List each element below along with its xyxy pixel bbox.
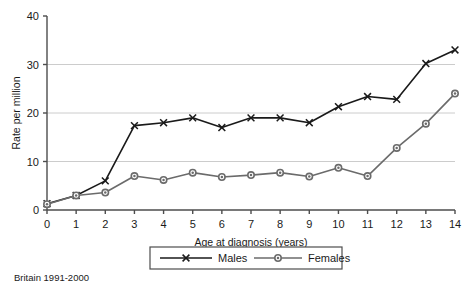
y-axis-title: Rate per million — [10, 76, 22, 149]
x-tick-label-0: 0 — [44, 218, 50, 230]
chart-figure: 01020304001234567891011121314Rate per mi… — [0, 0, 465, 289]
x-tick-label-14: 14 — [449, 218, 461, 230]
datapoint-females-age-13-dot — [425, 122, 428, 125]
legend-label-females: Females — [308, 252, 351, 264]
x-tick-label-5: 5 — [190, 218, 196, 230]
legend-label-males: Males — [218, 252, 248, 264]
x-tick-label-1: 1 — [73, 218, 79, 230]
y-tick-label-20: 20 — [27, 107, 39, 119]
datapoint-females-age-6-dot — [221, 176, 224, 179]
y-tick-label-0: 0 — [33, 204, 39, 216]
x-tick-label-10: 10 — [332, 218, 344, 230]
chart-caption: Britain 1991-2000 — [14, 272, 89, 283]
x-tick-label-4: 4 — [161, 218, 167, 230]
datapoint-females-age-12-dot — [395, 147, 398, 150]
datapoint-females-age-10-dot — [337, 167, 340, 170]
datapoint-females-age-0-dot — [46, 203, 49, 206]
x-tick-label-9: 9 — [306, 218, 312, 230]
y-tick-label-10: 10 — [27, 156, 39, 168]
datapoint-females-age-1-dot — [75, 194, 78, 197]
x-tick-label-6: 6 — [219, 218, 225, 230]
datapoint-females-age-14-dot — [454, 92, 457, 95]
x-tick-label-2: 2 — [102, 218, 108, 230]
x-tick-label-3: 3 — [131, 218, 137, 230]
x-tick-label-11: 11 — [362, 218, 373, 230]
legend-marker-females-dot — [277, 257, 280, 260]
x-tick-label-8: 8 — [277, 218, 283, 230]
x-tick-label-7: 7 — [248, 218, 254, 230]
datapoint-females-age-2-dot — [104, 191, 107, 194]
x-tick-label-12: 12 — [391, 218, 403, 230]
y-tick-label-30: 30 — [27, 59, 39, 71]
datapoint-females-age-4-dot — [162, 179, 165, 182]
datapoint-females-age-11-dot — [366, 175, 369, 178]
datapoint-females-age-9-dot — [308, 175, 311, 178]
y-tick-label-40: 40 — [27, 10, 39, 22]
rate-per-million-line-chart: 01020304001234567891011121314Rate per mi… — [0, 0, 465, 289]
x-tick-label-13: 13 — [420, 218, 432, 230]
datapoint-females-age-5-dot — [191, 171, 194, 174]
datapoint-females-age-8-dot — [279, 171, 282, 174]
datapoint-females-age-7-dot — [250, 174, 253, 177]
datapoint-females-age-3-dot — [133, 175, 136, 178]
x-axis-title: Age at diagnosis (years) — [194, 236, 307, 248]
